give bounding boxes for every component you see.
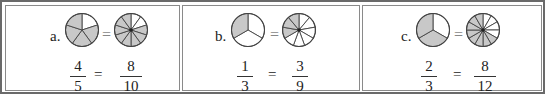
fraction-equals: =: [268, 66, 276, 83]
numerator: 8: [481, 58, 489, 74]
equals-sign: =: [102, 26, 111, 44]
denominator: 10: [124, 78, 139, 94]
fraction-left: 2 3: [417, 58, 441, 94]
denominator: 9: [296, 78, 304, 94]
fraction-bar: [421, 76, 437, 77]
equivalent-fractions-figure: a. = 4 5 = 8 10 b. = 1 3 = 3 9: [0, 0, 545, 94]
fraction-right: 8 10: [119, 58, 143, 94]
pie-thirds-icon: [415, 12, 451, 48]
numerator: 1: [241, 58, 249, 74]
fraction-bar: [70, 76, 86, 77]
panel-a: a. = 4 5 = 8 10: [5, 5, 180, 91]
fraction-left: 4 5: [66, 58, 90, 94]
equals-sign: =: [454, 26, 463, 44]
fraction-bar: [237, 76, 253, 77]
fraction-left: 1 3: [233, 58, 257, 94]
fraction-bar: [474, 76, 496, 77]
pie-fifths-icon: [64, 12, 100, 48]
problem-label: c.: [401, 28, 411, 45]
numerator: 8: [127, 58, 135, 74]
panel-b: b. = 1 3 = 3 9: [182, 5, 360, 91]
pie-twelfths-icon: [465, 12, 501, 48]
fraction-bar: [292, 76, 308, 77]
problem-label: a.: [50, 28, 60, 45]
fraction-right: 3 9: [288, 58, 312, 94]
denominator: 5: [74, 78, 82, 94]
pie-ninths-icon: [281, 12, 317, 48]
denominator: 3: [241, 78, 249, 94]
numerator: 4: [74, 58, 82, 74]
numerator: 2: [425, 58, 433, 74]
denominator: 3: [425, 78, 433, 94]
fraction-equals: =: [453, 66, 461, 83]
problem-label: b.: [215, 28, 226, 45]
numerator: 3: [296, 58, 304, 74]
equals-sign: =: [270, 26, 279, 44]
fraction-equals: =: [94, 66, 102, 83]
pie-thirds-icon: [230, 12, 266, 48]
fraction-right: 8 12: [473, 58, 497, 94]
fraction-bar: [120, 76, 142, 77]
denominator: 12: [478, 78, 493, 94]
pie-tenths-icon: [113, 12, 149, 48]
panel-c: c. = 2 3 = 8 12: [362, 5, 542, 91]
